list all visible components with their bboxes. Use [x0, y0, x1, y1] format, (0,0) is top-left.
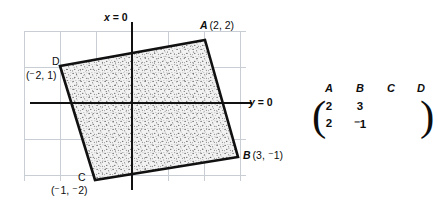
vertex-label-a: A(2, 2) [200, 20, 234, 31]
matrix-header-c: C [384, 82, 398, 94]
vertex-coord-a: (2, 2) [210, 19, 235, 31]
vertex-letter-c: C [78, 172, 86, 183]
matrix-cell-r0c1: 3 [352, 100, 368, 112]
matrix-bracket-right: ) [420, 96, 434, 136]
vertex-letter-a: A [200, 19, 210, 31]
matrix-body: ( ) 2 3 2 ⁻1 [312, 97, 432, 138]
figure-page: x = 0 y = 0 A(2, 2) B(3, ⁻1) C (⁻1, ⁻2) … [0, 0, 438, 212]
matrix-header-b: B [353, 82, 367, 94]
matrix-cell-r1c1: ⁻1 [352, 117, 368, 131]
coordinate-matrix: A B C D ( ) 2 3 2 ⁻1 [312, 82, 432, 138]
quadrilateral-abcd [60, 40, 238, 180]
matrix-cell-r0c0: 2 [321, 100, 337, 112]
vertex-coord-b: (3, ⁻1) [253, 149, 284, 161]
x-axis-label: x = 0 [104, 11, 128, 23]
y-axis-label: y = 0 [249, 96, 273, 108]
matrix-column-headers: A B C D [312, 82, 432, 96]
vertex-letter-d: D [52, 56, 60, 67]
matrix-cell-r1c0: 2 [321, 117, 337, 129]
vertex-coord-d: (⁻2, 1) [26, 70, 57, 81]
vertex-label-b: B(3, ⁻1) [243, 150, 283, 161]
vertex-letter-b: B [243, 149, 253, 161]
vertex-coord-c: (⁻1, ⁻2) [51, 185, 88, 196]
coordinate-graph-figure: x = 0 y = 0 A(2, 2) B(3, ⁻1) C (⁻1, ⁻2) … [0, 0, 300, 212]
